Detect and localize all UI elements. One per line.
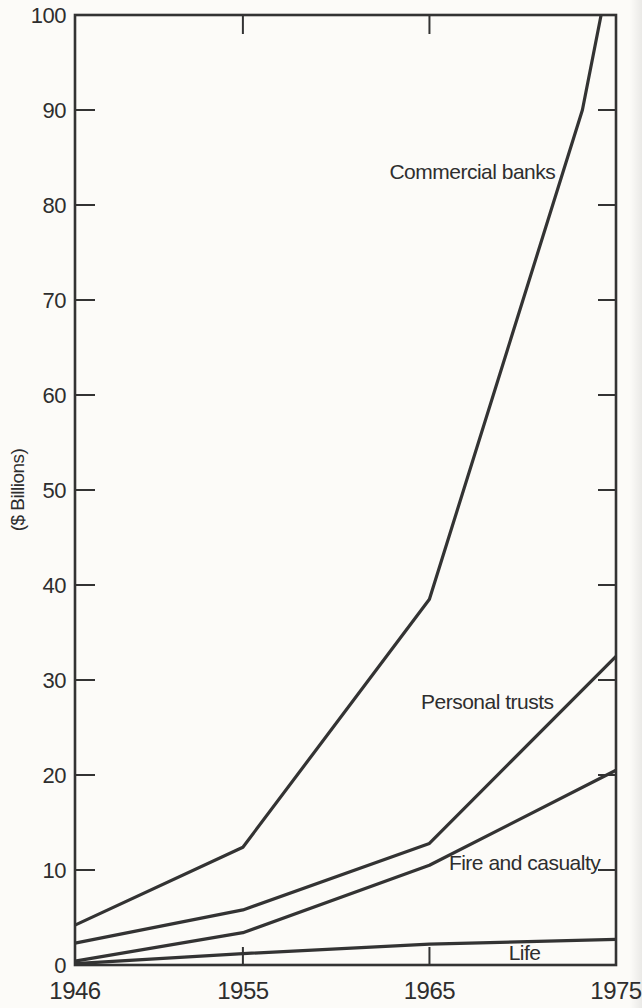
x-axis-tick-label: 1975 bbox=[590, 977, 642, 1004]
series-label-personal-trusts: Personal trusts bbox=[421, 690, 554, 713]
y-axis-tick-label: 100 bbox=[31, 3, 66, 28]
plot-frame bbox=[75, 15, 616, 965]
y-axis-tick-label: 50 bbox=[43, 478, 67, 503]
asset-growth-line-chart: 01020304050607080901001946195519651975Co… bbox=[0, 0, 642, 1008]
y-axis-title: ($ Billions) bbox=[7, 448, 28, 531]
y-axis-tick-label: 60 bbox=[43, 383, 67, 408]
plot-area: 01020304050607080901001946195519651975Co… bbox=[31, 3, 642, 1004]
y-axis-tick-label: 80 bbox=[43, 193, 67, 218]
y-axis-tick-label: 0 bbox=[54, 953, 66, 978]
scanned-chart-page: 01020304050607080901001946195519651975Co… bbox=[0, 0, 642, 1008]
y-axis-tick-label: 10 bbox=[43, 858, 67, 883]
series-label-commercial-banks: Commercial banks bbox=[389, 160, 555, 183]
y-axis-tick-label: 90 bbox=[43, 98, 67, 123]
x-axis-tick-label: 1965 bbox=[404, 977, 456, 1004]
y-axis-tick-label: 40 bbox=[43, 573, 67, 598]
series-label-fire-and-casualty: Fire and casualty bbox=[449, 851, 601, 874]
y-axis-tick-label: 70 bbox=[43, 288, 67, 313]
y-axis-tick-label: 20 bbox=[43, 763, 67, 788]
y-axis-tick-label: 30 bbox=[43, 668, 67, 693]
x-axis-tick-label: 1955 bbox=[217, 977, 269, 1004]
series-label-life: Life bbox=[509, 941, 541, 964]
x-axis-tick-label: 1946 bbox=[49, 977, 101, 1004]
series-line-commercial-banks bbox=[75, 15, 601, 925]
